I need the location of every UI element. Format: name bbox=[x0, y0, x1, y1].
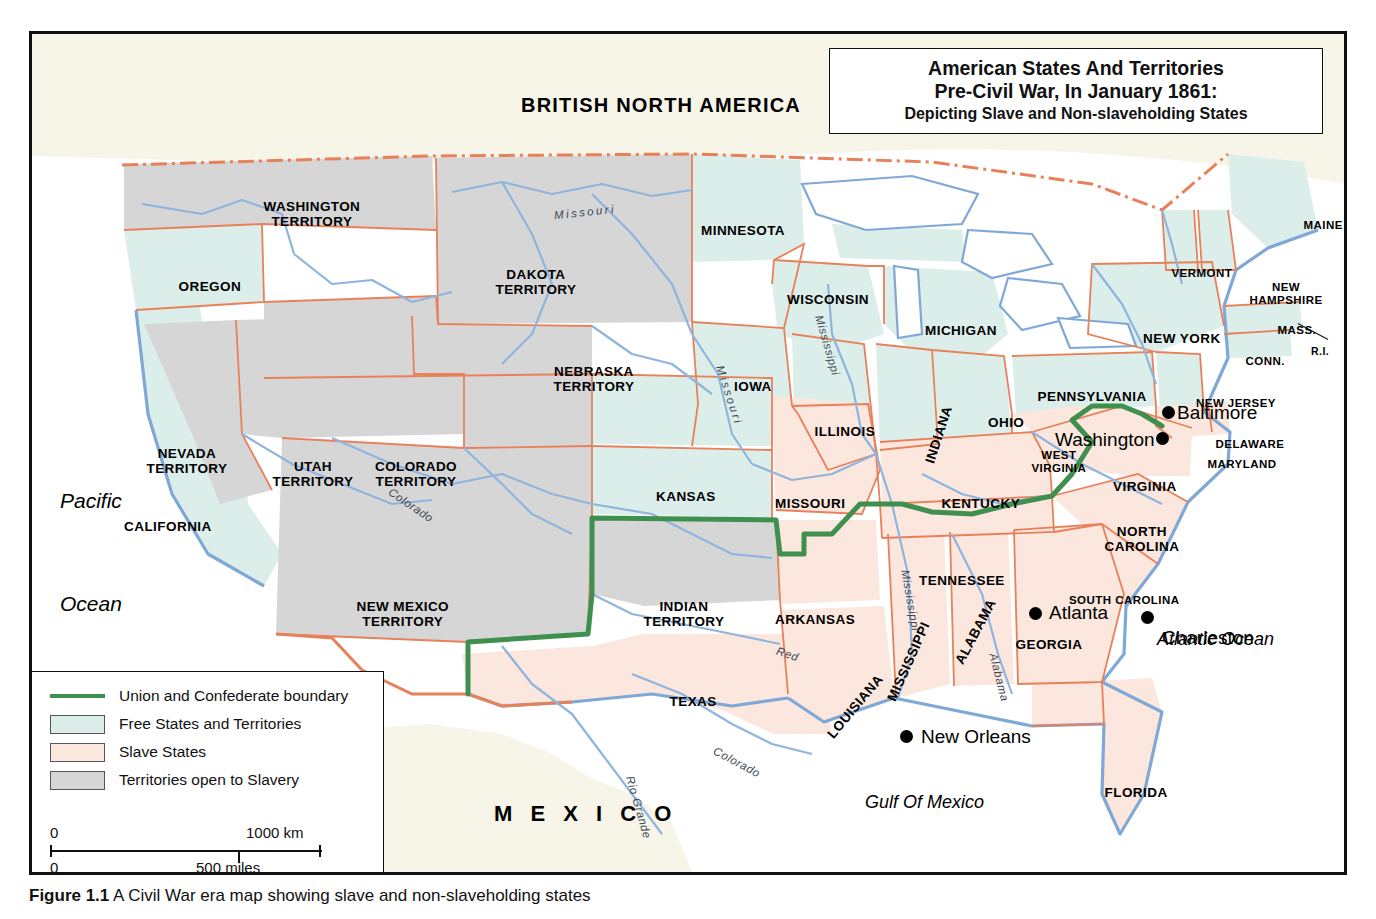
legend-color-swatch bbox=[50, 771, 105, 790]
state-label-new-mexico-territory: NEW MEXICO TERRITORY bbox=[357, 599, 450, 629]
state-label-indiana: INDIANA bbox=[922, 404, 955, 465]
state-label-mississippi: MISSISSIPPI bbox=[884, 620, 932, 704]
state-label-west-virginia: WEST VIRGINIA bbox=[1032, 449, 1087, 475]
ocean-label-ocean: Ocean bbox=[60, 592, 122, 616]
legend-label: Union and Confederate boundary bbox=[119, 687, 348, 705]
state-label-nevada-territory: NEVADA TERRITORY bbox=[147, 446, 228, 476]
legend-item-union-and-confederate-boundary: Union and Confederate boundary bbox=[50, 683, 383, 709]
state-label-new-york: NEW YORK bbox=[1143, 331, 1221, 346]
state-label-tennessee: TENNESSEE bbox=[919, 573, 1005, 588]
state-label-utah-territory: UTAH TERRITORY bbox=[273, 459, 354, 489]
scale-km-max: 1000 km bbox=[246, 824, 304, 841]
state-label-arkansas: ARKANSAS bbox=[775, 612, 855, 627]
legend-label: Slave States bbox=[119, 743, 206, 761]
state-label-indian-territory: INDIAN TERRITORY bbox=[644, 599, 725, 629]
state-label-washington-territory: WASHINGTON TERRITORY bbox=[264, 199, 361, 229]
country-label-m-e-x-i-c-o: M E X I C O bbox=[494, 802, 677, 827]
state-label-conn: CONN. bbox=[1246, 355, 1285, 368]
river-label-missouri-0: Missouri bbox=[553, 203, 616, 222]
state-label-illinois: ILLINOIS bbox=[815, 424, 876, 439]
ocean-label-gulf-of-mexico: Gulf Of Mexico bbox=[865, 792, 984, 812]
city-label-charleston: Charleston bbox=[1162, 627, 1254, 648]
scale-bar: 0 1000 km 0 500 miles bbox=[50, 824, 350, 875]
river-label-colorado-4: Colorado bbox=[385, 486, 435, 525]
state-label-michigan: MICHIGAN bbox=[925, 323, 997, 338]
state-label-dakota-territory: DAKOTA TERRITORY bbox=[496, 267, 577, 297]
state-label-texas: TEXAS bbox=[670, 694, 717, 709]
state-label-florida: FLORIDA bbox=[1105, 785, 1168, 800]
legend-item-territories-open-to-slavery: Territories open to Slavery bbox=[50, 767, 383, 793]
map-frame: WASHINGTON TERRITORYOREGONDAKOTA TERRITO… bbox=[29, 31, 1347, 875]
legend-item-free-states-and-territories: Free States and Territories bbox=[50, 711, 383, 737]
title-line-2: Pre-Civil War, In January 1861: bbox=[836, 80, 1316, 103]
city-label-washington: Washington bbox=[1055, 429, 1155, 450]
state-label-nebraska-territory: NEBRASKA TERRITORY bbox=[554, 364, 635, 394]
state-label-virginia: VIRGINIA bbox=[1113, 479, 1177, 494]
legend-color-swatch bbox=[50, 715, 105, 734]
river-label-missouri-1: Missouri bbox=[713, 364, 744, 427]
state-label-delaware: DELAWARE bbox=[1216, 438, 1285, 451]
city-label-baltimore: Baltimore bbox=[1177, 402, 1257, 423]
state-label-maine: MAINE bbox=[1304, 219, 1343, 232]
country-label-british-north-america: BRITISH NORTH AMERICA bbox=[521, 94, 801, 116]
city-dot-atlanta bbox=[1029, 607, 1042, 620]
city-label-atlanta: Atlanta bbox=[1049, 602, 1108, 623]
legend-rows: Union and Confederate boundaryFree State… bbox=[50, 683, 383, 793]
legend-item-slave-states: Slave States bbox=[50, 739, 383, 765]
river-label-mississippi-2: Mississippi bbox=[812, 314, 842, 377]
map-legend: Union and Confederate boundaryFree State… bbox=[32, 671, 384, 875]
map-figure: WASHINGTON TERRITORYOREGONDAKOTA TERRITO… bbox=[0, 0, 1376, 919]
city-dot-charleston bbox=[1141, 611, 1154, 624]
title-line-1: American States And Territories bbox=[836, 57, 1316, 80]
scale-km-zero: 0 bbox=[50, 824, 58, 841]
state-label-oregon: OREGON bbox=[179, 279, 242, 294]
state-label-georgia: GEORGIA bbox=[1016, 637, 1083, 652]
state-label-louisiana: LOUISIANA bbox=[824, 672, 886, 742]
caption-figure-number: Figure 1.1 bbox=[29, 886, 109, 905]
figure-caption: Figure 1.1 A Civil War era map showing s… bbox=[29, 886, 1229, 906]
state-label-wisconsin: WISCONSIN bbox=[787, 292, 869, 307]
caption-text: A Civil War era map showing slave and no… bbox=[113, 886, 591, 905]
scale-bar-graphic bbox=[50, 843, 350, 858]
legend-label: Free States and Territories bbox=[119, 715, 301, 733]
state-label-california: CALIFORNIA bbox=[124, 519, 212, 534]
scale-miles-zero: 0 bbox=[50, 859, 58, 875]
state-label-maryland: MARYLAND bbox=[1208, 458, 1277, 471]
city-label-new-orleans: New Orleans bbox=[921, 726, 1031, 747]
map-title-box: American States And Territories Pre-Civi… bbox=[829, 48, 1323, 134]
state-label-pennsylvania: PENNSYLVANIA bbox=[1038, 389, 1147, 404]
state-label-kansas: KANSAS bbox=[656, 489, 716, 504]
city-dot-baltimore bbox=[1162, 406, 1175, 419]
ocean-label-pacific: Pacific bbox=[60, 489, 122, 513]
legend-color-swatch bbox=[50, 743, 105, 762]
scale-miles-labels: 0 500 miles bbox=[50, 859, 350, 875]
title-line-3: Depicting Slave and Non-slaveholding Sta… bbox=[836, 104, 1316, 124]
state-label-kentucky: KENTUCKY bbox=[942, 496, 1021, 511]
state-label-colorado-territory: COLORADO TERRITORY bbox=[375, 459, 457, 489]
state-label-iowa: IOWA bbox=[734, 379, 772, 394]
city-dot-washington bbox=[1156, 432, 1169, 445]
state-label-new-hampshire: NEW HAMPSHIRE bbox=[1250, 281, 1323, 307]
legend-label: Territories open to Slavery bbox=[119, 771, 299, 789]
river-label-red-6: Red bbox=[774, 645, 800, 664]
state-label-r-i: R.I. bbox=[1311, 346, 1329, 358]
state-label-ohio: OHIO bbox=[988, 415, 1024, 430]
state-label-missouri: MISSOURI bbox=[775, 496, 845, 511]
city-dot-new-orleans bbox=[900, 730, 913, 743]
state-label-north-carolina: NORTH CAROLINA bbox=[1105, 524, 1180, 554]
river-label-alabama-8: Alabama bbox=[987, 652, 1011, 703]
legend-line-swatch bbox=[50, 694, 105, 698]
state-label-minnesota: MINNESOTA bbox=[701, 223, 785, 238]
state-label-vermont: VERMONT bbox=[1172, 267, 1233, 280]
river-label-colorado-5: Colorado bbox=[710, 745, 761, 781]
scale-miles-max: 500 miles bbox=[196, 859, 260, 875]
scale-km-labels: 0 1000 km bbox=[50, 824, 350, 842]
